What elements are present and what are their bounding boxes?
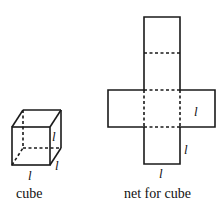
net-side-label: l (194, 104, 198, 120)
net-caption: net for cube (124, 186, 191, 202)
cube-caption: cube (16, 186, 42, 202)
cube-height-label: l (52, 129, 56, 145)
net-bottom-height-label: l (184, 142, 188, 158)
cube-depth-label: l (55, 158, 59, 174)
cube-width-label: l (28, 168, 32, 184)
diagram-canvas (0, 0, 223, 208)
net-bottom-width-label: l (159, 166, 163, 182)
net-drawing (108, 17, 215, 164)
